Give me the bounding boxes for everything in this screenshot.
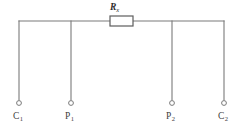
terminal-node-p1[interactable] <box>69 101 74 106</box>
terminal-label-p2: P2 <box>166 112 175 122</box>
terminal-label-c2-subscript: 2 <box>225 115 228 122</box>
terminal-label-p1: P1 <box>65 112 74 122</box>
terminal-label-p2-main: P <box>166 111 171 121</box>
resistor-label: Rx <box>110 3 119 13</box>
terminal-label-p2-subscript: 2 <box>172 115 175 122</box>
terminal-node-c2[interactable] <box>222 101 227 106</box>
terminal-node-p2[interactable] <box>170 101 175 106</box>
terminal-label-c1: C1 <box>13 112 23 122</box>
resistor-label-subscript: x <box>116 6 119 13</box>
terminal-label-p1-main: P <box>65 111 70 121</box>
terminal-label-c1-subscript: 1 <box>20 115 23 122</box>
terminal-label-c2: C2 <box>218 112 228 122</box>
circuit-schematic <box>0 0 238 134</box>
terminal-node-c1[interactable] <box>17 101 22 106</box>
resistor-symbol <box>110 16 133 26</box>
terminal-label-c1-main: C <box>13 111 19 121</box>
terminal-label-c2-main: C <box>218 111 224 121</box>
terminal-label-p1-subscript: 1 <box>71 115 74 122</box>
circuit-diagram-canvas: Rx C1 P1 P2 C2 <box>0 0 238 134</box>
